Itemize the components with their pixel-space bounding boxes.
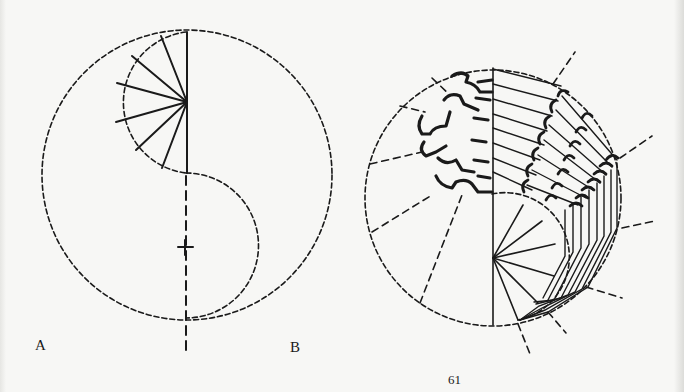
figure-b xyxy=(0,0,684,392)
figure-b-label: B xyxy=(290,339,300,356)
figure-a-label: A xyxy=(35,337,46,354)
book-page: A B 61 xyxy=(0,0,684,392)
figure-b-sweep-lines xyxy=(520,163,617,320)
figure-b-folded-profiles-left xyxy=(419,73,492,192)
page-number: 61 xyxy=(448,372,461,388)
